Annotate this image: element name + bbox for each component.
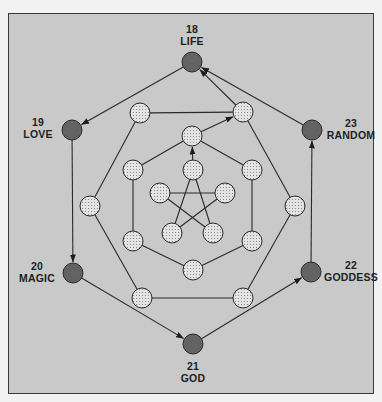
label-random: 23 RANDOM xyxy=(324,117,378,141)
edge-b3-b4 xyxy=(202,245,243,265)
edge-b1-b2 xyxy=(201,141,244,165)
node-c4 xyxy=(162,223,182,243)
edge-b4-b5 xyxy=(142,245,184,265)
node-a5 xyxy=(132,288,152,308)
node-god xyxy=(183,334,203,354)
node-b1 xyxy=(182,126,202,146)
label-love: 19 LOVE xyxy=(18,116,58,140)
label-life: 18 LIFE xyxy=(172,23,212,47)
node-b5 xyxy=(123,231,143,251)
label-magic-number: 20 xyxy=(14,260,60,272)
label-god-number: 21 xyxy=(173,360,213,372)
label-life-text: LIFE xyxy=(172,35,212,47)
node-c3 xyxy=(203,223,223,243)
edge-a1-a2 xyxy=(150,112,233,113)
node-random xyxy=(302,120,322,140)
node-goddess xyxy=(301,262,321,282)
node-love xyxy=(62,120,82,140)
label-love-text: LOVE xyxy=(18,128,58,140)
node-a6 xyxy=(80,196,100,216)
node-a1 xyxy=(130,103,150,123)
label-random-text: RANDOM xyxy=(324,129,378,141)
label-goddess-number: 22 xyxy=(323,259,379,271)
arrow-goddess-random xyxy=(311,141,312,262)
label-goddess: 22 GODDESS xyxy=(323,259,379,283)
node-life xyxy=(182,52,202,72)
sigil-graph xyxy=(0,0,382,402)
node-a3 xyxy=(285,196,305,216)
arrow-god-goddess xyxy=(202,278,302,339)
arrow-a2-life xyxy=(200,70,236,105)
node-a4 xyxy=(233,288,253,308)
label-god-text: GOD xyxy=(173,372,213,384)
edge-c1-c3 xyxy=(196,180,210,224)
arrow-love-magic xyxy=(72,140,73,262)
node-a2 xyxy=(233,102,253,122)
edge-a2-a3 xyxy=(248,121,290,197)
node-b4 xyxy=(183,260,203,280)
label-god: 21 GOD xyxy=(173,360,213,384)
label-random-number: 23 xyxy=(324,117,378,129)
node-b6 xyxy=(123,160,143,180)
edge-b6-b1 xyxy=(142,141,184,165)
edge-a5-a6 xyxy=(95,215,137,290)
node-b3 xyxy=(242,231,262,251)
node-magic xyxy=(63,263,83,283)
edge-a6-a1 xyxy=(95,122,136,197)
node-c1 xyxy=(183,160,203,180)
edge-a3-a4 xyxy=(248,215,290,290)
node-c5 xyxy=(150,183,170,203)
label-life-number: 18 xyxy=(172,23,212,35)
label-love-number: 19 xyxy=(18,116,58,128)
edge-c4-c1 xyxy=(175,179,190,223)
node-b2 xyxy=(242,160,262,180)
arrow-magic-god xyxy=(82,278,184,338)
label-magic: 20 MAGIC xyxy=(14,260,60,284)
arrow-b1-a2 xyxy=(201,117,233,132)
label-goddess-text: GODDESS xyxy=(323,271,379,283)
node-c2 xyxy=(215,183,235,203)
label-magic-text: MAGIC xyxy=(14,272,60,284)
